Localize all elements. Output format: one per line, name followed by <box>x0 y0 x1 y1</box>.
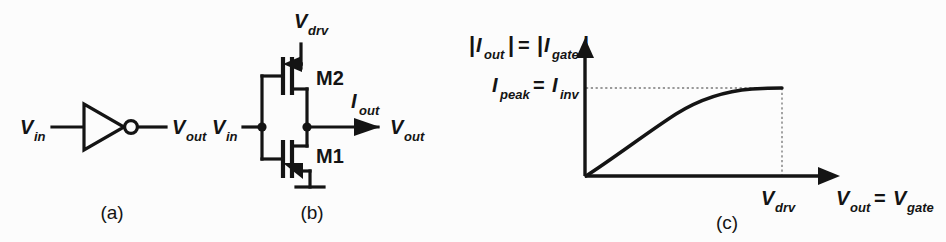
y-label-var-iout: I <box>476 34 482 56</box>
panel-a-output-label: V out <box>172 116 207 144</box>
iv-characteristic-curve <box>586 88 782 176</box>
panel-c: | I out | = | I gate | I peak = I inv <box>469 32 934 233</box>
y-label-bar-2: | <box>508 32 514 57</box>
y-tick-var-iinv: I <box>552 74 558 96</box>
m1-label: M1 <box>316 145 344 167</box>
x-label-var-vgate: V <box>893 187 908 209</box>
m2-label: M2 <box>316 67 344 89</box>
y-label-equals: = <box>518 34 530 56</box>
panel-a: V in V out (a) <box>20 104 207 223</box>
y-tick-equals: = <box>533 74 545 96</box>
i-out-current-arrow-icon <box>354 118 380 136</box>
transistor-m2-pmos: M2 <box>262 56 344 127</box>
panel-b-input-var: V <box>212 116 227 138</box>
panel-a-input-sub: in <box>34 129 46 144</box>
panel-b-supply-var: V <box>294 10 309 32</box>
y-tick-sub-peak: peak <box>499 87 530 102</box>
y-label-sub-gate: gate <box>551 47 579 62</box>
x-tick-var: V <box>761 187 776 209</box>
transistor-m1-nmos: M1 <box>262 127 344 187</box>
panel-b-supply-label: V drv <box>294 10 329 38</box>
panel-c-y-axis-label: | I out | = | I gate | <box>469 32 589 62</box>
panel-c-y-tick-label: I peak = I inv <box>492 74 580 102</box>
x-label-equals: = <box>874 187 886 209</box>
figure-container: V in V out (a) V drv <box>0 0 946 242</box>
y-label-bar-3: | <box>537 32 543 57</box>
panel-c-caption: (c) <box>716 212 738 233</box>
panel-a-output-sub: out <box>186 129 207 144</box>
inverter-triangle-icon <box>84 104 124 150</box>
y-label-bar-1: | <box>469 32 475 57</box>
panel-b-caption: (b) <box>300 202 323 223</box>
panel-b-current-var: I <box>351 90 357 112</box>
inverter-bubble-icon <box>125 121 138 134</box>
panel-a-output-var: V <box>172 116 187 138</box>
y-label-var-igate: I <box>544 34 550 56</box>
panel-a-input-var: V <box>20 116 35 138</box>
panel-a-caption: (a) <box>100 202 123 223</box>
x-tick-sub: drv <box>775 200 796 215</box>
x-label-sub-out: out <box>850 200 871 215</box>
panel-c-x-tick-label: V drv <box>761 187 796 215</box>
figure-svg: V in V out (a) V drv <box>0 0 946 242</box>
panel-b-input-sub: in <box>226 129 238 144</box>
panel-b-output-label: V out <box>390 116 425 144</box>
x-label-sub-gate: gate <box>906 200 934 215</box>
x-label-var-vout: V <box>836 187 851 209</box>
panel-b-output-var: V <box>390 116 405 138</box>
panel-a-input-label: V in <box>20 116 46 144</box>
panel-b-output-sub: out <box>404 129 425 144</box>
panel-c-x-axis-label: V out = V gate <box>836 187 934 215</box>
panel-b-input-node-dot <box>257 122 266 131</box>
panel-b: V drv M <box>212 10 425 223</box>
panel-b-current-sub: out <box>359 103 380 118</box>
y-tick-var-ipeak: I <box>492 74 498 96</box>
y-label-sub-out: out <box>484 47 505 62</box>
panel-b-input-label: V in <box>212 116 238 144</box>
x-axis-arrowhead-icon <box>818 167 840 185</box>
panel-b-supply-sub: drv <box>308 23 329 38</box>
y-tick-sub-inv: inv <box>560 87 580 102</box>
panel-b-current-label: I out <box>351 90 380 118</box>
